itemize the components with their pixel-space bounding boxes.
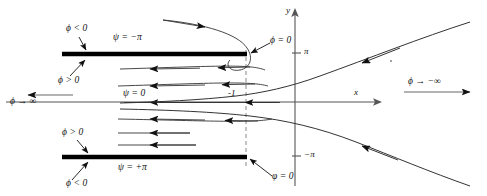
asymptote-curve-lower-arrow — [362, 146, 398, 160]
branch-point-upper-label: ϕ = 0 — [270, 36, 291, 46]
leader-branch-point-lower — [250, 159, 272, 176]
x-tick-minus-one-label: -1 — [228, 89, 236, 98]
upper-cut-psi-label: ψ = −π — [113, 33, 142, 43]
upper-cut-phi-below-label: ϕ > 0 — [58, 76, 79, 86]
leader-lower-phi-positive — [77, 140, 88, 153]
streamline-row3-arrow-mid — [225, 120, 258, 121]
streamline-row1-arrow-left — [150, 68, 200, 69]
upper-cut-phi-above-label: ϕ < 0 — [66, 24, 87, 34]
phi-to-plus-infinity-label: ϕ → ∞ — [10, 97, 36, 107]
branch-cuts — [62, 54, 247, 157]
asymptote-curve-upper-arrow — [362, 48, 400, 63]
lower-cut-phi-above-label: ϕ > 0 — [62, 128, 83, 138]
y-tick-minus-pi-label: −π — [304, 150, 315, 159]
lower-cut-phi-below-label: ϕ < 0 — [66, 179, 87, 189]
complex-potential-figure: ψ = −π ψ = 0 ψ = +π ϕ < 0 ϕ > 0 ϕ > 0 ϕ … — [0, 0, 487, 196]
scan-speck — [390, 60, 392, 62]
streamline-upper-loop — [163, 20, 251, 70]
y-axis-label: y — [286, 6, 290, 15]
lower-cut-psi-label: ψ = +π — [118, 163, 147, 173]
streamlines — [118, 20, 470, 186]
streamline-row2-arrow-mid — [222, 84, 255, 85]
leader-branch-point-upper — [251, 43, 270, 53]
middle-psi-label: ψ = 0 — [123, 89, 145, 99]
leader-upper-phi-negative — [79, 37, 86, 50]
branch-point-lower-label: φ = 0 — [272, 172, 294, 182]
leader-upper-phi-positive — [70, 60, 85, 76]
y-tick-pi-label: π — [304, 47, 309, 56]
x-axis-label: x — [354, 88, 358, 97]
streamline-upper-loop-arrow — [163, 20, 205, 27]
phi-to-minus-infinity-label: ϕ → −∞ — [408, 77, 441, 87]
